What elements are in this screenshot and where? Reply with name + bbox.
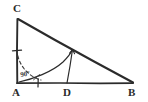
vertex-label-C: C xyxy=(13,3,21,14)
geometry-figure: C A D B 90° xyxy=(0,0,148,102)
tick-on-CA xyxy=(13,50,22,51)
vertex-label-B: B xyxy=(128,87,135,98)
side-CB-hypotenuse xyxy=(18,19,133,83)
vertex-label-D: D xyxy=(63,87,71,98)
geometry-canvas xyxy=(0,0,148,102)
vertex-label-A: A xyxy=(12,87,20,98)
